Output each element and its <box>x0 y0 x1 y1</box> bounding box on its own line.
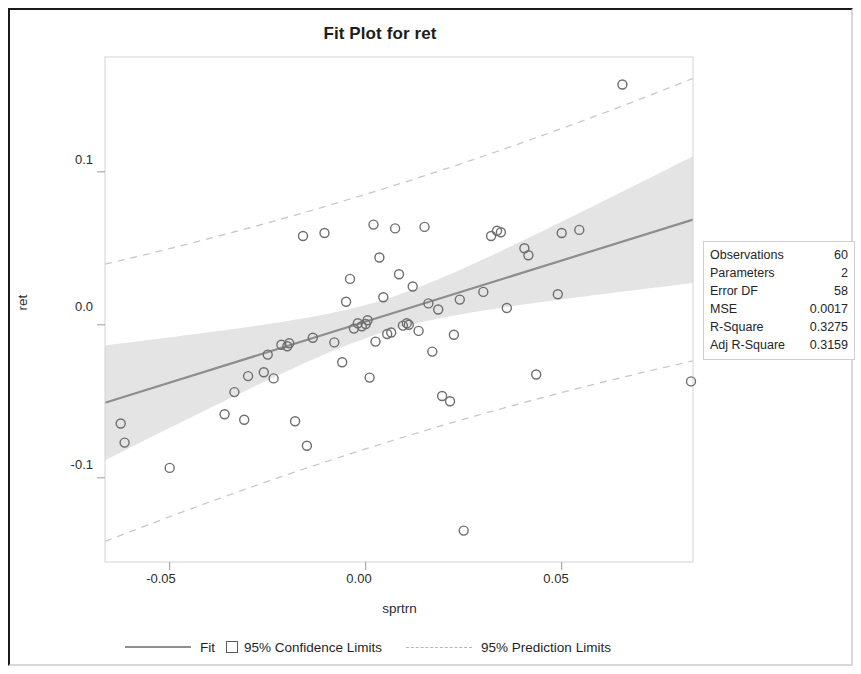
legend-entry-fit[interactable]: Fit <box>125 640 215 655</box>
data-point-marker <box>369 220 378 229</box>
fit-regression-line <box>105 220 693 403</box>
data-point-marker <box>375 253 384 262</box>
x-tick-label: -0.05 <box>126 571 196 586</box>
stats-value: 2 <box>801 264 849 282</box>
data-point-marker <box>532 370 541 379</box>
stats-label: Observations <box>709 246 801 264</box>
data-point-marker <box>371 337 380 346</box>
stats-label: R-Square <box>709 318 801 336</box>
data-point-marker <box>687 377 696 386</box>
legend-label-fit: Fit <box>200 640 215 655</box>
legend-entry-prediction-limits[interactable]: 95% Prediction Limits <box>382 640 611 655</box>
data-point-marker <box>428 347 437 356</box>
legend-entry-confidence-limits[interactable]: 95% Confidence Limits <box>215 640 382 655</box>
data-point-marker <box>291 417 300 426</box>
stats-row: Observations60 <box>709 246 849 264</box>
stats-value: 60 <box>801 246 849 264</box>
y-tick-label: -0.1 <box>23 457 93 472</box>
data-point-marker <box>438 392 447 401</box>
x-tick-label: 0.00 <box>324 571 394 586</box>
y-tick-label: 0.1 <box>23 152 93 167</box>
stats-value: 58 <box>801 282 849 300</box>
stats-value: 0.0017 <box>801 300 849 318</box>
data-point-marker <box>618 80 627 89</box>
stats-row: MSE0.0017 <box>709 300 849 318</box>
stats-label: Error DF <box>709 282 801 300</box>
confidence-band-region <box>105 156 693 460</box>
stats-row: Parameters2 <box>709 264 849 282</box>
data-point-marker <box>391 224 400 233</box>
stats-value: 0.3275 <box>801 318 849 336</box>
data-point-marker <box>338 358 347 367</box>
data-point-marker <box>449 330 458 339</box>
stats-row: Error DF58 <box>709 282 849 300</box>
data-point-marker <box>420 222 429 231</box>
fit-statistics-table: Observations60Parameters2Error DF58MSE0.… <box>709 246 849 354</box>
stats-label: MSE <box>709 300 801 318</box>
stats-value: 0.3159 <box>801 336 849 354</box>
chart-legend: Fit 95% Confidence Limits 95% Prediction… <box>125 636 745 658</box>
fit-statistics-box: Observations60Parameters2Error DF58MSE0.… <box>703 241 855 360</box>
data-point-marker <box>302 441 311 450</box>
data-point-marker <box>446 397 455 406</box>
data-point-marker <box>346 274 355 283</box>
data-point-marker <box>395 270 404 279</box>
data-point-marker <box>408 282 417 291</box>
data-point-marker <box>342 297 351 306</box>
fit-line-swatch-icon <box>125 646 191 648</box>
page-title: Fit Plot for ret <box>0 24 760 44</box>
data-point-marker <box>299 232 308 241</box>
data-point-marker <box>414 326 423 335</box>
stats-label: Adj R-Square <box>709 336 801 354</box>
data-point-marker <box>240 415 249 424</box>
data-point-marker <box>220 410 229 419</box>
data-point-marker <box>165 463 174 472</box>
data-point-marker <box>487 232 496 241</box>
x-tick-label: 0.05 <box>521 571 591 586</box>
legend-label-confidence-limits: 95% Confidence Limits <box>244 640 382 655</box>
prediction-band-swatch-icon <box>406 647 472 648</box>
stats-row: R-Square0.3275 <box>709 318 849 336</box>
data-point-marker <box>320 229 329 238</box>
data-point-marker <box>365 373 374 382</box>
stats-label: Parameters <box>709 264 801 282</box>
stats-row: Adj R-Square0.3159 <box>709 336 849 354</box>
confidence-band-swatch-icon <box>226 641 238 653</box>
x-axis-label: sprtrn <box>105 601 694 616</box>
legend-label-prediction-limits: 95% Prediction Limits <box>481 640 611 655</box>
data-point-marker <box>459 526 468 535</box>
y-tick-label: 0.0 <box>23 299 93 314</box>
